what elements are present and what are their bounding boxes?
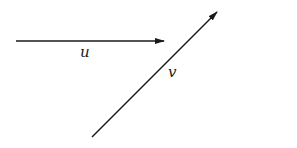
vector-v-label: v: [168, 65, 176, 80]
vector-u-label: u: [80, 45, 90, 60]
vector-v-arrow: [92, 12, 217, 137]
vector-diagram: u v: [0, 0, 297, 148]
vector-drawing: [0, 0, 297, 148]
